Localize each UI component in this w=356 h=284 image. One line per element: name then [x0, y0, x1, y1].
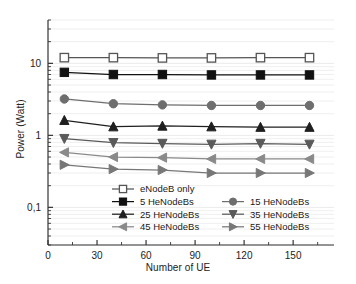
svg-text:45 HeNodeBs: 45 HeNodeBs — [140, 221, 199, 232]
data-series — [60, 68, 314, 79]
legend-item: eNodeB only — [112, 183, 195, 194]
data-series — [60, 95, 314, 110]
svg-text:25 HeNodeBs: 25 HeNodeBs — [140, 209, 199, 220]
chart-canvas: 1010,10306090120150 eNodeB only5 HeNodeB… — [0, 0, 356, 284]
svg-text:15 HeNodeBs: 15 HeNodeBs — [250, 196, 309, 207]
svg-text:30: 30 — [91, 250, 103, 261]
legend-item: 55 HeNodeBs — [222, 221, 309, 232]
svg-text:10: 10 — [30, 58, 42, 69]
legend-item: 45 HeNodeBs — [112, 221, 199, 232]
svg-text:120: 120 — [236, 250, 253, 261]
legend-item: 35 HeNodeBs — [222, 209, 309, 220]
data-series — [60, 148, 314, 164]
data-series — [60, 160, 314, 177]
y-axis-label: Power (Watt) — [15, 99, 26, 158]
svg-text:5 HeNodeBs: 5 HeNodeBs — [140, 196, 194, 207]
data-series — [60, 134, 314, 149]
svg-text:eNodeB only: eNodeB only — [140, 183, 195, 194]
y-axis-label-wrapper: Power (Watt) — [10, 64, 28, 194]
svg-text:35 HeNodeBs: 35 HeNodeBs — [250, 209, 309, 220]
svg-text:90: 90 — [190, 250, 202, 261]
data-series — [60, 53, 314, 62]
svg-text:55 HeNodeBs: 55 HeNodeBs — [250, 221, 309, 232]
legend-item: 5 HeNodeBs — [112, 196, 194, 207]
data-series-layer — [60, 53, 315, 177]
svg-text:0: 0 — [45, 250, 51, 261]
svg-text:150: 150 — [285, 250, 302, 261]
svg-text:60: 60 — [140, 250, 152, 261]
svg-text:1: 1 — [35, 130, 41, 141]
legend-item: 25 HeNodeBs — [112, 209, 199, 220]
data-series — [60, 115, 314, 131]
chart-figure: 1010,10306090120150 eNodeB only5 HeNodeB… — [0, 0, 356, 284]
svg-text:0,1: 0,1 — [27, 202, 41, 213]
legend-item: 15 HeNodeBs — [222, 196, 309, 207]
x-axis-label: Number of UE — [0, 262, 356, 273]
